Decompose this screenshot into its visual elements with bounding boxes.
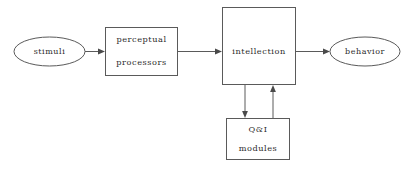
edge-stimuli-to-perceptual-processors — [85, 49, 105, 55]
diagram-canvas: stimuli perceptual processors intellecti… — [0, 0, 407, 174]
edge-intellection-to-qi-modules — [242, 85, 248, 118]
perceptual-processors-label-line2: processors — [116, 57, 166, 67]
arrowhead-up-icon — [270, 85, 276, 92]
flow-diagram: stimuli perceptual processors intellecti… — [0, 0, 407, 174]
arrowhead-right-icon — [323, 49, 330, 55]
stimuli-label: stimuli — [34, 47, 66, 56]
qi-modules-label-line1: Q&I — [249, 124, 268, 134]
arrowhead-right-icon — [215, 49, 222, 55]
node-qi-modules[interactable]: Q&I modules — [227, 119, 290, 160]
arrowhead-down-icon — [242, 111, 248, 118]
edge-intellection-to-behavior — [296, 49, 330, 55]
intellection-label: intellection — [232, 46, 286, 56]
edge-qi-modules-to-intellection — [270, 85, 276, 118]
behavior-label: behavior — [345, 47, 385, 56]
node-intellection[interactable]: intellection — [223, 8, 296, 85]
node-perceptual-processors[interactable]: perceptual processors — [106, 28, 178, 76]
edge-perceptual-processors-to-intellection — [178, 49, 222, 55]
perceptual-processors-label-line1: perceptual — [116, 34, 166, 44]
arrowhead-right-icon — [98, 49, 105, 55]
node-stimuli[interactable]: stimuli — [14, 37, 85, 66]
node-behavior[interactable]: behavior — [330, 37, 400, 66]
qi-modules-label-line2: modules — [239, 143, 278, 153]
